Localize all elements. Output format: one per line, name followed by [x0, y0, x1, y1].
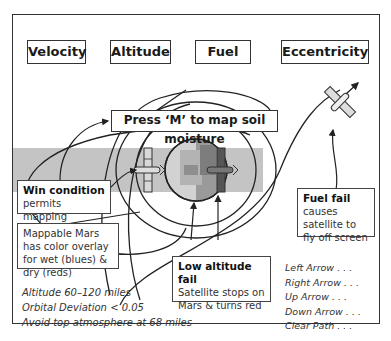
map-moisture-prompt: Press ‘M’ to map soil moisture — [111, 110, 278, 132]
win-condition-title: Win condition — [23, 184, 105, 196]
constraint-orbital-deviation: Orbital Deviation < 0.05 — [22, 300, 192, 315]
constraint-altitude: Altitude 60–120 miles — [22, 285, 192, 300]
low-altitude-fail-title: Low altitude fail — [178, 260, 252, 285]
constraint-atmosphere: Avoid top atmosphere at 68 miles — [22, 315, 192, 330]
hud-eccentricity-label: Eccentricity — [282, 44, 368, 59]
controls-legend: Left Arrow . . . Right Arrow . . . Up Ar… — [285, 261, 361, 334]
win-condition-body: permits mapping — [23, 198, 67, 222]
fuel-fail-title: Fuel fail — [303, 192, 350, 204]
control-up-arrow: Up Arrow . . . — [285, 290, 361, 305]
hud-fuel: Fuel — [195, 40, 251, 64]
constraints-notes: Altitude 60–120 miles Orbital Deviation … — [22, 285, 192, 330]
control-left-arrow: Left Arrow . . . — [285, 261, 361, 276]
fuel-fail-body: causes satellite to fly off screen — [303, 206, 368, 243]
hud-altitude-label: Altitude — [111, 44, 170, 59]
hud-eccentricity: Eccentricity — [281, 40, 369, 64]
control-right-arrow: Right Arrow . . . — [285, 276, 361, 291]
mappable-mars-callout: Mappable Mars has color overlay for wet … — [17, 223, 119, 269]
escaping-satellite-icon — [319, 81, 360, 122]
control-down-arrow: Down Arrow . . . — [285, 305, 361, 320]
hud-velocity: Velocity — [27, 40, 86, 64]
win-condition-callout: Win condition permits mapping — [17, 180, 111, 214]
hud-altitude: Altitude — [110, 40, 171, 64]
hud-velocity-label: Velocity — [28, 44, 86, 59]
control-clear-path: Clear Path . . . — [285, 319, 361, 334]
hud-fuel-label: Fuel — [208, 44, 239, 59]
fuel-fail-callout: Fuel fail causes satellite to fly off sc… — [297, 188, 375, 237]
